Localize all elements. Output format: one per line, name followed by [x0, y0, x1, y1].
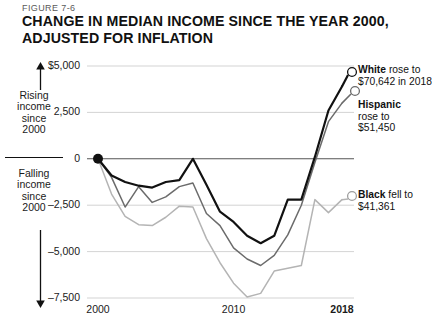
white-label-line-2: $70,642 in 2018	[358, 76, 433, 88]
series-markers	[93, 68, 359, 201]
y-axis-tick-label: –5,000	[28, 245, 80, 257]
leader-line-white	[342, 75, 348, 86]
series-line-white	[98, 86, 342, 243]
leader-line-hispanic	[342, 94, 351, 103]
white-label-rest: rose to	[386, 64, 420, 75]
series-label-black: Black fell to $41,361	[358, 189, 432, 212]
series-line-black	[98, 159, 342, 297]
x-axis-tick-label: 2010	[209, 303, 259, 315]
end-marker-hispanic	[351, 87, 360, 96]
y-axis-tick-label: 2,500	[28, 105, 80, 117]
series-paths	[98, 86, 342, 297]
leader-line-black	[342, 199, 348, 200]
series-label-hispanic: Hispanic rose to $51,450	[358, 99, 430, 134]
y-axis-tick-label: $5,000	[28, 59, 80, 71]
x-axis-tick-label: 2018	[317, 303, 367, 315]
y-axis-tick-label: –2,500	[28, 198, 80, 210]
black-series-name: Black	[358, 189, 385, 200]
black-label-line-2: $41,361	[358, 201, 432, 213]
white-label-line-1: White rose to	[358, 64, 433, 76]
series-label-white: White rose to $70,642 in 2018	[358, 64, 433, 87]
y-axis-tick-label: 0	[28, 152, 80, 164]
start-marker-dot	[93, 154, 103, 164]
x-axis-tick-label: 2000	[73, 303, 123, 315]
white-series-name: White	[358, 64, 386, 75]
hispanic-series-name: Hispanic	[358, 99, 401, 110]
end-marker-white	[348, 68, 357, 77]
hispanic-label-line-3: $51,450	[358, 122, 430, 134]
figure-container: FIGURE 7-6 CHANGE IN MEDIAN INCOME SINCE…	[0, 0, 433, 334]
y-axis-tick-label: –7,500	[28, 291, 80, 303]
hispanic-label-line-2: rose to	[358, 111, 430, 123]
black-label-rest: fell to	[385, 189, 412, 200]
black-label-line-1: Black fell to	[358, 189, 432, 201]
line-chart-plot	[0, 0, 433, 334]
end-marker-black	[348, 192, 357, 201]
source-note-cropped	[22, 327, 232, 333]
